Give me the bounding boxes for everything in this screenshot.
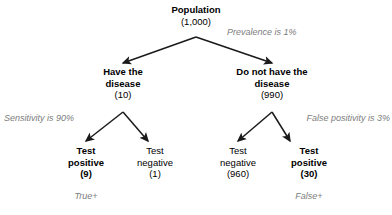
node-population: Population (1,000) xyxy=(146,4,246,27)
node-have-the-disease-label-line1: Have the xyxy=(73,66,173,78)
annotation-prevalence: Prevalence is 1% xyxy=(227,27,297,38)
node-do-not-have-the-disease-count: (990) xyxy=(212,89,332,101)
node-test-negative-true-label-line1: Test xyxy=(206,145,270,157)
node-have-the-disease-label-line2: disease xyxy=(73,78,173,90)
node-test-positive-true-label-line1: Test xyxy=(55,145,117,157)
diagram-canvas: Population (1,000) Prevalence is 1% Have… xyxy=(0,0,392,215)
node-have-the-disease-count: (10) xyxy=(73,89,173,101)
node-test-positive-false-count: (30) xyxy=(278,168,340,180)
footnote-true-positive: True+ xyxy=(55,191,117,202)
node-test-negative-false-label-line2: negative xyxy=(124,157,186,169)
node-do-not-have-the-disease: Do not have the disease (990) xyxy=(212,66,332,101)
annotation-sensitivity: Sensitivity is 90% xyxy=(4,113,74,124)
node-test-negative-false-label-line1: Test xyxy=(124,145,186,157)
node-test-positive-false-label-line1: Test xyxy=(278,145,340,157)
edge-not-diseased-to-false-positive xyxy=(272,112,290,141)
edge-population-to-diseased xyxy=(123,37,196,63)
node-test-negative-false: Test negative (1) xyxy=(124,145,186,180)
node-do-not-have-the-disease-label-line2: disease xyxy=(212,78,332,90)
node-test-positive-false: Test positive (30) xyxy=(278,145,340,180)
node-population-count: (1,000) xyxy=(146,16,246,28)
footnote-false-positive: False+ xyxy=(278,191,340,202)
node-test-negative-true: Test negative (960) xyxy=(206,145,270,180)
edge-diseased-to-false-negative xyxy=(123,112,148,141)
node-test-positive-true-count: (9) xyxy=(55,168,117,180)
annotation-false-positivity: False positivity is 3% xyxy=(292,113,390,124)
node-test-positive-true: Test positive (9) xyxy=(55,145,117,180)
edge-population-to-not-diseased xyxy=(196,37,272,63)
edge-diseased-to-true-positive xyxy=(86,112,123,141)
node-test-negative-false-count: (1) xyxy=(124,168,186,180)
node-test-positive-false-label-line2: positive xyxy=(278,157,340,169)
node-test-positive-true-label-line2: positive xyxy=(55,157,117,169)
edge-not-diseased-to-true-negative xyxy=(238,112,272,141)
node-have-the-disease: Have the disease (10) xyxy=(73,66,173,101)
node-do-not-have-the-disease-label-line1: Do not have the xyxy=(212,66,332,78)
tree-arrows xyxy=(0,0,392,215)
node-test-negative-true-count: (960) xyxy=(206,168,270,180)
node-test-negative-true-label-line2: negative xyxy=(206,157,270,169)
node-population-label: Population xyxy=(146,4,246,16)
